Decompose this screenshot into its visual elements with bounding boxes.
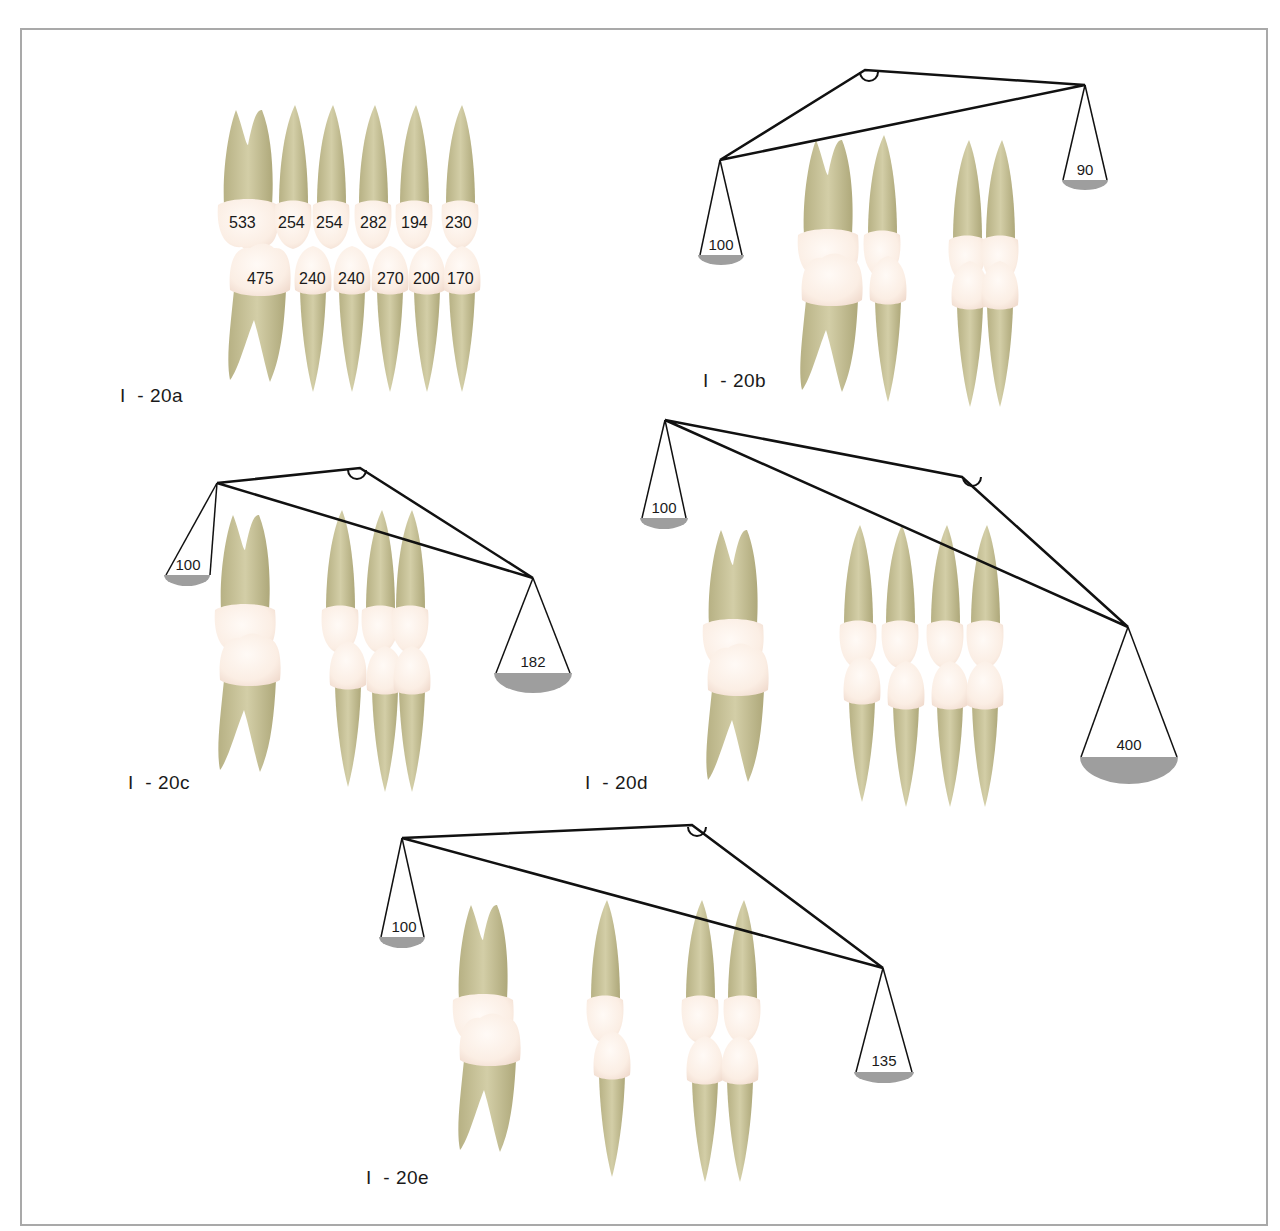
figure-20c-teeth <box>215 510 431 792</box>
figure-20a-teeth <box>218 105 481 392</box>
lower-value-2: 240 <box>299 270 326 287</box>
left-pan-weight-20d: 100 <box>651 499 676 516</box>
right-pan-20c <box>494 673 572 693</box>
lower-value-3: 240 <box>338 270 365 287</box>
figure-label-20a: I - 20a <box>120 385 183 407</box>
upper-value-2: 254 <box>278 214 305 231</box>
lower-value-5: 200 <box>413 270 440 287</box>
lower-value-1: 475 <box>247 270 274 287</box>
figure-20b-teeth <box>798 135 1019 407</box>
figure-20e-teeth <box>453 900 761 1182</box>
dental-diagram: 533 254 254 282 194 230 475 240 240 270 … <box>0 0 1280 1231</box>
upper-value-4: 282 <box>360 214 387 231</box>
left-pan-20c <box>164 575 210 586</box>
figure-label-20c: I - 20c <box>128 772 190 794</box>
upper-value-3: 254 <box>316 214 343 231</box>
right-pan-weight-20b: 90 <box>1077 161 1094 178</box>
right-pan-weight-20d: 400 <box>1116 736 1141 753</box>
left-pan-20b <box>698 255 744 265</box>
upper-value-6: 230 <box>445 214 472 231</box>
right-pan-20b <box>1062 180 1108 190</box>
right-pan-weight-20c: 182 <box>520 653 545 670</box>
balance-scale-20b <box>700 70 1107 255</box>
lower-value-6: 170 <box>447 270 474 287</box>
upper-value-1: 533 <box>229 214 256 231</box>
figure-20d-teeth <box>703 525 1004 807</box>
left-pan-20e <box>379 937 425 948</box>
right-pan-20e <box>854 1072 914 1083</box>
left-pan-weight-20e: 100 <box>391 918 416 935</box>
left-pan-weight-20b: 100 <box>708 236 733 253</box>
upper-value-5: 194 <box>401 214 428 231</box>
right-pan-20d <box>1080 757 1178 784</box>
left-pan-20d <box>640 518 688 529</box>
right-pan-weight-20e: 135 <box>871 1052 896 1069</box>
figure-label-20e: I - 20e <box>366 1167 429 1189</box>
figure-label-20d: I - 20d <box>585 772 648 794</box>
left-pan-weight-20c: 100 <box>175 556 200 573</box>
figure-label-20b: I - 20b <box>703 370 766 392</box>
lower-value-4: 270 <box>377 270 404 287</box>
